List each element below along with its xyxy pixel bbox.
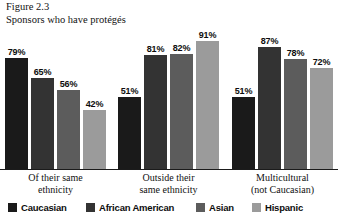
bar-group: 51%87%78%72%	[232, 27, 333, 169]
bar-value-label: 65%	[34, 67, 51, 77]
category-label: Multicultural(not Caucasian)	[232, 172, 333, 195]
bar-value-label: 78%	[287, 48, 304, 58]
bar-item[interactable]: 72%	[310, 27, 333, 169]
bar[interactable]	[144, 55, 167, 169]
legend-label: Hispanic	[265, 202, 303, 213]
bar-item[interactable]: 56%	[57, 27, 80, 169]
plot-area: 79%65%56%42%51%81%82%91%51%87%78%72%	[0, 26, 338, 170]
category-label-line: Of their same	[5, 172, 106, 184]
bar-value-label: 56%	[60, 79, 77, 89]
bar[interactable]	[196, 41, 219, 169]
legend-item[interactable]: Hispanic	[252, 202, 303, 213]
bar-value-label: 82%	[173, 43, 190, 53]
bar[interactable]	[5, 58, 28, 169]
bar-item[interactable]: 91%	[196, 27, 219, 169]
legend-item[interactable]: Asian	[196, 202, 234, 213]
legend-item[interactable]: African American	[86, 202, 174, 213]
legend-item[interactable]: Caucasian	[8, 202, 67, 213]
legend-swatch-icon	[196, 203, 205, 212]
bar[interactable]	[232, 97, 255, 169]
category-label-line: same ethnicity	[118, 184, 219, 196]
bar-value-label: 79%	[8, 47, 25, 57]
bar[interactable]	[118, 97, 141, 169]
category-label-line: Outside their	[118, 172, 219, 184]
legend-label: Asian	[209, 202, 234, 213]
legend-swatch-icon	[252, 203, 261, 212]
bar[interactable]	[284, 59, 307, 169]
figure-title-block: Figure 2.3 Sponsors who have protégés	[6, 1, 326, 26]
bar-value-label: 51%	[235, 86, 252, 96]
bar-item[interactable]: 65%	[31, 27, 54, 169]
bar-value-label: 91%	[199, 30, 216, 40]
x-axis-line	[0, 169, 338, 171]
figure-number: Figure 2.3	[6, 1, 326, 14]
legend-label: African American	[99, 202, 174, 213]
bar-item[interactable]: 81%	[144, 27, 167, 169]
figure-caption: Sponsors who have protégés	[6, 14, 326, 27]
bar-item[interactable]: 79%	[5, 27, 28, 169]
legend-label: Caucasian	[21, 202, 67, 213]
bar[interactable]	[310, 68, 333, 169]
bar-group: 79%65%56%42%	[5, 27, 106, 169]
legend-swatch-icon	[8, 203, 17, 212]
bar-item[interactable]: 42%	[83, 27, 106, 169]
bar-value-label: 72%	[313, 57, 330, 67]
category-label-line: Multicultural	[232, 172, 333, 184]
bar-value-label: 87%	[261, 36, 278, 46]
bar[interactable]	[258, 47, 281, 169]
category-label-line: ethnicity	[5, 184, 106, 196]
category-labels: Of their sameethnicityOutside theirsame …	[0, 172, 338, 198]
bar-item[interactable]: 82%	[170, 27, 193, 169]
bar[interactable]	[83, 110, 106, 169]
chart-legend: CaucasianAfrican AmericanAsianHispanic	[0, 201, 338, 213]
bar[interactable]	[31, 78, 54, 169]
bar-item[interactable]: 51%	[118, 27, 141, 169]
figure-container: Figure 2.3 Sponsors who have protégés 79…	[0, 0, 338, 213]
category-label: Of their sameethnicity	[5, 172, 106, 195]
bar-group: 51%81%82%91%	[118, 27, 219, 169]
bar-item[interactable]: 78%	[284, 27, 307, 169]
bar[interactable]	[57, 90, 80, 169]
category-label-line: (not Caucasian)	[232, 184, 333, 196]
bar-item[interactable]: 87%	[258, 27, 281, 169]
bar[interactable]	[170, 54, 193, 169]
bar-value-label: 81%	[147, 44, 164, 54]
legend-swatch-icon	[86, 203, 95, 212]
bar-value-label: 51%	[121, 86, 138, 96]
category-label: Outside theirsame ethnicity	[118, 172, 219, 195]
bar-value-label: 42%	[86, 99, 103, 109]
bar-item[interactable]: 51%	[232, 27, 255, 169]
